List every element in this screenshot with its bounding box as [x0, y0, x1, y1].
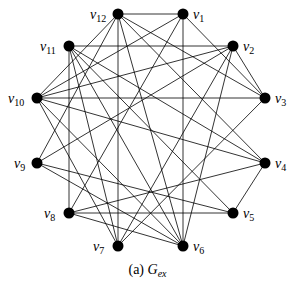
edge-v12-v10 [37, 14, 118, 98]
node-v9 [32, 158, 43, 169]
edge-v3-v7 [118, 98, 265, 246]
edge-v11-v7 [69, 46, 118, 246]
label-v9: v9 [14, 157, 25, 173]
node-v7 [113, 241, 124, 252]
edge-v9-v5 [37, 163, 233, 213]
label-v10: v10 [8, 92, 24, 108]
label-v3: v3 [275, 92, 286, 108]
edge-v1-v10 [37, 14, 183, 98]
node-v3 [260, 93, 271, 104]
node-v8 [64, 208, 75, 219]
node-v4 [260, 158, 271, 169]
edge-v10-v2 [37, 46, 233, 98]
node-v2 [228, 41, 239, 52]
edge-v4-v8 [69, 163, 265, 213]
node-v5 [228, 208, 239, 219]
label-v1: v1 [193, 8, 204, 24]
node-v1 [178, 9, 189, 20]
edge-v12-v9 [37, 14, 118, 163]
edge-v11-v6 [69, 46, 183, 246]
label-v12: v12 [90, 8, 106, 24]
label-v7: v7 [93, 240, 104, 256]
node-v6 [178, 241, 189, 252]
edge-v12-v3 [118, 14, 265, 98]
figure-caption: (a) Gex [0, 262, 295, 279]
caption-graph-sub: ex [158, 268, 167, 279]
edge-v8-v6 [69, 213, 183, 246]
edge-v9-v6 [37, 163, 183, 246]
label-v6: v6 [193, 240, 204, 256]
label-v4: v4 [275, 157, 286, 173]
label-v8: v8 [44, 207, 55, 223]
node-v10 [32, 93, 43, 104]
node-v12 [113, 9, 124, 20]
caption-prefix: (a) [128, 262, 144, 277]
label-v2: v2 [243, 40, 254, 56]
node-v11 [64, 41, 75, 52]
edge-v10-v4 [37, 98, 265, 163]
label-v5: v5 [243, 207, 254, 223]
caption-graph-name: G [148, 262, 158, 277]
label-v11: v11 [40, 40, 56, 56]
edge-v10-v6 [37, 98, 183, 246]
edge-v2-v6 [183, 46, 233, 246]
